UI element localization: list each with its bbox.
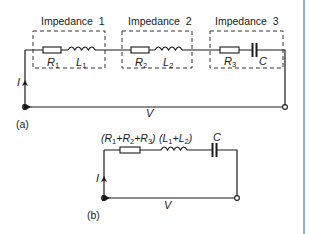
label-l1: L1 <box>76 56 86 70</box>
part-b-label: (b) <box>87 209 100 221</box>
capacitor-b <box>213 143 217 157</box>
circuit-diagram: Impedance 1 Impedance 2 Impedance 3 R1 L… <box>0 0 309 234</box>
label-l-sum: (L1+L2) <box>159 132 192 146</box>
resistor-r3 <box>220 47 239 53</box>
inductor-sum <box>161 147 187 150</box>
resistor-sum <box>120 147 140 153</box>
capacitor-c <box>253 43 257 57</box>
label-r3: R3 <box>224 55 236 69</box>
terminal-a-right <box>283 105 288 110</box>
current-label-b: I <box>96 172 99 184</box>
terminal-b-right <box>235 196 240 201</box>
label-l2: L2 <box>163 56 173 70</box>
terminal-a-left <box>23 105 28 110</box>
label-r1: R1 <box>47 56 59 70</box>
current-label-a: I <box>17 76 20 88</box>
inductor-l1 <box>68 47 95 50</box>
part-a-label: (a) <box>16 118 29 130</box>
label-c-b: C <box>213 131 221 143</box>
impedance-1-title: Impedance 1 <box>41 15 105 27</box>
part-a-circuit: Impedance 1 Impedance 2 Impedance 3 R1 L… <box>16 15 287 130</box>
page-edge-border <box>303 0 305 234</box>
impedance-2-title: Impedance 2 <box>128 15 192 27</box>
resistor-r1 <box>43 47 61 53</box>
top-wire <box>25 50 285 107</box>
voltage-label-b: V <box>164 199 173 211</box>
part-b-circuit: (R1+R2+R3) (L1+L2) C I V (b) <box>87 131 239 221</box>
label-r-sum: (R1+R2+R3) <box>101 132 156 146</box>
label-r2: R2 <box>135 56 147 70</box>
voltage-label-a: V <box>146 107 155 119</box>
label-c: C <box>259 55 267 67</box>
inductor-l2 <box>155 47 182 50</box>
impedance-3-title: Impedance 3 <box>215 15 279 27</box>
terminal-b-left <box>102 196 107 201</box>
resistor-r2 <box>131 47 149 53</box>
